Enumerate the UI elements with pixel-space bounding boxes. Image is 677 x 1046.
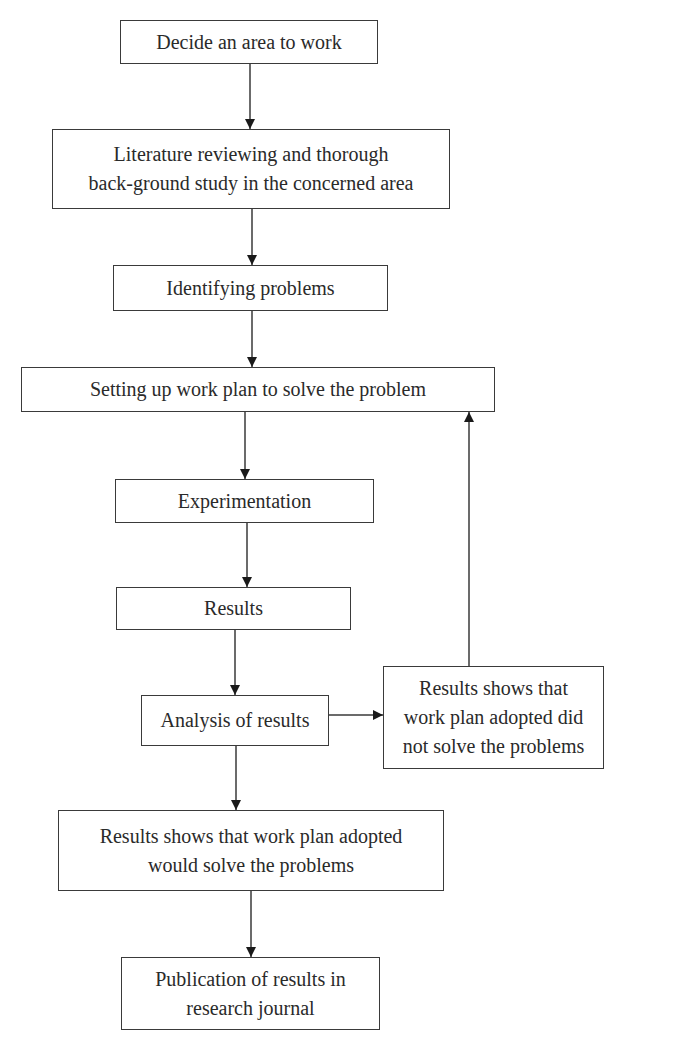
node-text: research journal <box>186 994 314 1023</box>
node-text: Analysis of results <box>161 706 310 735</box>
node-identifying-problems: Identifying problems <box>113 265 388 311</box>
node-text: Results shows that <box>419 674 568 703</box>
node-results: Results <box>116 587 351 630</box>
node-text: Setting up work plan to solve the proble… <box>90 375 426 404</box>
node-text: Results shows that work plan adopted <box>100 822 403 851</box>
node-experimentation: Experimentation <box>115 479 374 523</box>
node-text: Decide an area to work <box>156 28 341 57</box>
node-literature-review: Literature reviewing and thorough back-g… <box>52 129 450 209</box>
node-text: Results <box>204 594 263 623</box>
node-did-not-solve: Results shows that work plan adopted did… <box>383 666 604 769</box>
node-work-plan: Setting up work plan to solve the proble… <box>21 367 495 412</box>
node-text: Experimentation <box>178 487 311 516</box>
node-text: Publication of results in <box>155 965 346 994</box>
node-text: back-ground study in the concerned area <box>89 169 414 198</box>
node-text: would solve the problems <box>148 851 354 880</box>
node-would-solve: Results shows that work plan adopted wou… <box>58 810 444 891</box>
node-decide-area: Decide an area to work <box>120 20 378 64</box>
node-text: Identifying problems <box>166 274 334 303</box>
node-text: Literature reviewing and thorough <box>114 140 389 169</box>
flowchart: Decide an area to work Literature review… <box>0 0 677 1046</box>
node-text: work plan adopted did <box>404 703 583 732</box>
node-analysis: Analysis of results <box>141 695 329 746</box>
node-text: not solve the problems <box>403 732 585 761</box>
node-publication: Publication of results in research journ… <box>121 957 380 1030</box>
